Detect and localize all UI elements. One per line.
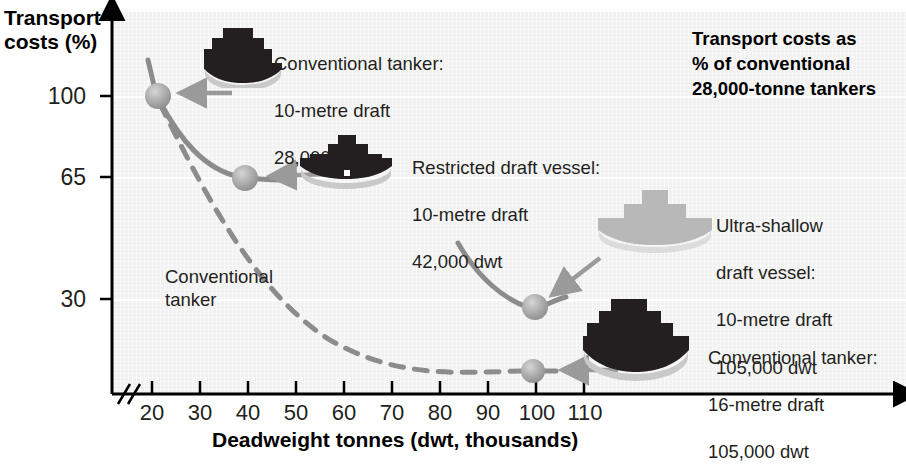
chart-header-note: Transport costs as % of conventional 28,…: [692, 27, 876, 102]
marker-105000-dwt-shallow[interactable]: [522, 294, 548, 320]
callout-conventional-105000-line1: Conventional tanker:: [708, 346, 878, 370]
callout-conventional-105000-line3: 105,000 dwt: [708, 440, 878, 464]
x-tick-label-60: 60: [332, 400, 356, 426]
ship-icon-ultra-shallow-105000: [598, 188, 712, 254]
callout-conventional-28000-line2: 10-metre draft: [274, 99, 444, 123]
callout-ultra-shallow-105000-line2: draft vessel:: [716, 261, 832, 285]
x-tick-label-40: 40: [236, 400, 260, 426]
x-tick-label-110: 110: [567, 400, 602, 426]
x-tick-label-70: 70: [380, 400, 404, 426]
callout-restricted-42000-line2: 10-metre draft: [412, 203, 600, 227]
ship-icon-conventional-28000: [204, 26, 282, 88]
marker-42000-dwt[interactable]: [232, 165, 258, 191]
x-tick-label-30: 30: [188, 400, 212, 426]
callout-conventional-28000-line1: Conventional tanker:: [274, 52, 444, 76]
y-tick-label-30: 30: [16, 286, 86, 313]
x-tick-label-90: 90: [476, 400, 500, 426]
callout-restricted-42000: Restricted draft vessel: 10-metre draft …: [412, 132, 600, 298]
x-tick-label-100: 100: [519, 400, 556, 426]
y-tick-label-100: 100: [16, 83, 86, 110]
y-axis: [100, 18, 112, 394]
y-axis-title: Transport costs (%): [4, 6, 114, 55]
callout-conventional-105000: Conventional tanker: 16-metre draft 105,…: [708, 322, 878, 464]
y-tick-label-65: 65: [16, 164, 86, 191]
callout-restricted-42000-line1: Restricted draft vessel:: [412, 156, 600, 180]
x-tick-label-50: 50: [284, 400, 308, 426]
callout-ultra-shallow-105000-line1: Ultra-shallow: [716, 214, 832, 238]
marker-105000-dwt-conventional[interactable]: [521, 359, 545, 383]
callout-restricted-42000-line3: 42,000 dwt: [412, 250, 600, 274]
x-axis-title: Deadweight tonnes (dwt, thousands): [212, 428, 578, 452]
x-tick-label-80: 80: [428, 400, 452, 426]
callout-conventional-105000-line2: 16-metre draft: [708, 393, 878, 417]
x-tick-label-20: 20: [140, 400, 164, 426]
marker-28000-dwt[interactable]: [145, 83, 171, 109]
ship-icon-conventional-105000: [583, 298, 689, 384]
curve-label-conventional-tanker: Conventional tanker: [165, 266, 273, 311]
